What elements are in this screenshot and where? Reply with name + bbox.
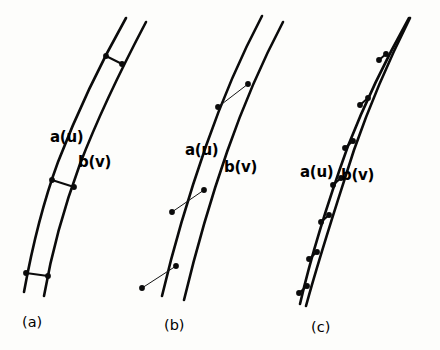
panel-b-node xyxy=(215,104,221,110)
panel-c-node xyxy=(326,212,332,218)
panel-c-node xyxy=(376,57,382,63)
panel-b-label-curve-a: a(u) xyxy=(185,141,218,159)
panel-a-node xyxy=(71,184,77,190)
panel-c-node xyxy=(350,138,356,144)
panel-c-node xyxy=(330,182,336,188)
panel-c-curve-b xyxy=(306,18,410,306)
panel-c-label-curve-b: b(v) xyxy=(341,166,374,184)
panel-c-label-curve-a: a(u) xyxy=(300,163,333,181)
panel-c-node xyxy=(318,219,324,225)
panel-c-node xyxy=(365,95,371,101)
panel-b-connector-1 xyxy=(218,84,248,107)
panel-c-node xyxy=(357,102,363,108)
panel-b-node xyxy=(173,263,179,269)
panel-c-caption: (c) xyxy=(311,319,330,335)
panel-b-node xyxy=(201,187,207,193)
panel-a-node xyxy=(45,273,51,279)
panel-a-node xyxy=(119,61,125,67)
panel-a-connector-3 xyxy=(26,273,48,276)
panel-a-label-curve-b: b(v) xyxy=(78,153,111,171)
panel-c-node xyxy=(304,283,310,289)
panel-a-caption: (a) xyxy=(22,314,42,330)
panel-c-curve-a xyxy=(300,18,409,304)
panel-b-node xyxy=(245,81,251,87)
panel-c-node xyxy=(306,256,312,262)
panel-c-node xyxy=(383,51,389,57)
panel-b-node xyxy=(139,285,145,291)
panel-b-label-curve-b: b(v) xyxy=(224,158,257,176)
panel-a-node xyxy=(103,53,109,59)
panel-a-node xyxy=(23,270,29,276)
panel-c-node xyxy=(296,290,302,296)
panel-c-node xyxy=(342,145,348,151)
panel-c-node xyxy=(314,249,320,255)
panel-b-connector-3 xyxy=(142,266,176,288)
panel-a: a(u) b(v) (a) xyxy=(22,18,146,330)
panel-a-label-curve-a: a(u) xyxy=(50,128,83,146)
figure-diagram: a(u) b(v) (a) a(u) b(v) (b) a(u) b(v) (c… xyxy=(0,0,440,350)
figure-canvas: a(u) b(v) (a) a(u) b(v) (b) a(u) b(v) (c… xyxy=(0,0,440,350)
panel-b: a(u) b(v) (b) xyxy=(139,16,283,333)
panel-b-caption: (b) xyxy=(164,317,185,333)
panel-c: a(u) b(v) (c) xyxy=(296,18,410,335)
panel-b-connector-2 xyxy=(172,190,204,212)
panel-b-node xyxy=(169,209,175,215)
panel-a-connector-2 xyxy=(52,180,74,187)
panel-a-node xyxy=(49,177,55,183)
